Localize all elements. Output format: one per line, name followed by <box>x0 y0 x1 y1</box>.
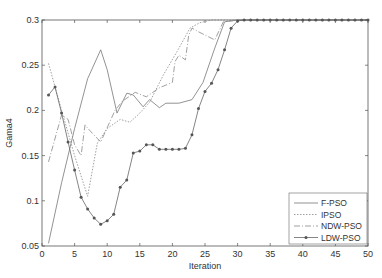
line-chart: 051015202530354045500.050.10.150.20.250.… <box>0 0 382 278</box>
data-marker <box>204 90 207 93</box>
data-marker <box>67 141 70 144</box>
legend: F-PSOIPSONDW-PSOLDW-PSO <box>289 193 367 244</box>
data-marker <box>93 216 96 219</box>
data-marker <box>295 19 298 22</box>
y-tick-label: 0.3 <box>26 15 39 25</box>
data-marker <box>106 219 109 222</box>
data-marker <box>177 148 180 151</box>
data-marker <box>340 19 343 22</box>
data-marker <box>288 19 291 22</box>
x-tick-label: 45 <box>330 249 340 259</box>
data-marker <box>60 112 63 115</box>
x-tick-label: 30 <box>233 249 243 259</box>
x-axis-label: Iteration <box>189 261 222 271</box>
data-marker <box>347 19 350 22</box>
data-marker <box>249 19 252 22</box>
y-axis-label: Gama4 <box>4 118 14 148</box>
data-marker <box>151 143 154 146</box>
data-marker <box>158 148 161 151</box>
data-marker <box>217 68 220 71</box>
data-marker <box>164 148 167 151</box>
y-tick-label: 0.25 <box>21 60 39 70</box>
data-marker <box>243 19 246 22</box>
x-tick-label: 5 <box>72 249 77 259</box>
y-tick-label: 0.2 <box>26 105 39 115</box>
data-marker <box>138 150 141 153</box>
x-tick-label: 25 <box>200 249 210 259</box>
data-marker <box>282 19 285 22</box>
data-marker <box>230 27 233 30</box>
data-marker <box>132 151 135 154</box>
x-tick-label: 20 <box>167 249 177 259</box>
data-marker <box>99 223 102 226</box>
data-marker <box>327 19 330 22</box>
x-tick-label: 0 <box>39 249 44 259</box>
legend-label: F-PSO <box>321 198 347 208</box>
data-marker <box>112 213 115 216</box>
data-marker <box>145 143 148 146</box>
data-marker <box>210 82 213 85</box>
data-marker <box>262 19 265 22</box>
data-marker <box>54 85 57 88</box>
x-tick-label: 15 <box>135 249 145 259</box>
data-marker <box>256 19 259 22</box>
y-tick-label: 0.15 <box>21 151 39 161</box>
data-marker <box>184 147 187 150</box>
y-tick-label: 0.1 <box>26 196 39 206</box>
data-marker <box>314 19 317 22</box>
data-marker <box>223 48 226 51</box>
data-marker <box>353 19 356 22</box>
data-marker <box>360 19 363 22</box>
data-marker <box>86 207 89 210</box>
data-marker <box>321 19 324 22</box>
data-marker <box>125 179 128 182</box>
x-tick-label: 35 <box>265 249 275 259</box>
legend-label: LDW-PSO <box>321 233 361 243</box>
data-marker <box>73 169 76 172</box>
x-tick-label: 40 <box>298 249 308 259</box>
data-marker <box>190 133 193 136</box>
x-tick-label: 50 <box>363 249 373 259</box>
y-tick-label: 0.05 <box>21 241 39 251</box>
data-marker <box>197 107 200 110</box>
legend-label: IPSO <box>321 210 342 220</box>
data-marker <box>308 19 311 22</box>
x-tick-label: 10 <box>102 249 112 259</box>
data-marker <box>275 19 278 22</box>
legend-label: NDW-PSO <box>321 221 362 231</box>
data-marker <box>47 94 50 97</box>
data-marker <box>171 148 174 151</box>
data-marker <box>80 196 83 199</box>
data-marker <box>119 186 122 189</box>
